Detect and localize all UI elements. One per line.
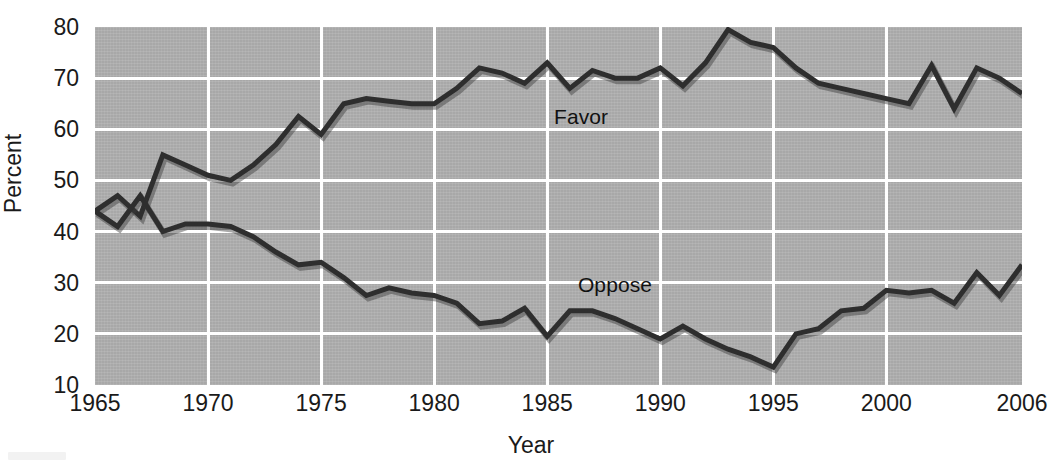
y-tick-label: 40 bbox=[33, 218, 79, 245]
y-tick-label: 20 bbox=[33, 320, 79, 347]
x-axis-tick-labels: 196519701975198019851990199520002006 bbox=[0, 390, 1062, 424]
series-line-oppose bbox=[95, 196, 1022, 367]
x-tick-label: 1995 bbox=[748, 390, 799, 417]
plot-area: FavorOppose bbox=[95, 27, 1022, 385]
y-tick-label: 30 bbox=[33, 269, 79, 296]
series-container bbox=[95, 27, 1022, 385]
scan-artifact bbox=[8, 452, 66, 460]
y-tick-label: 50 bbox=[33, 167, 79, 194]
x-tick-label: 2006 bbox=[996, 390, 1047, 417]
x-tick-label: 1985 bbox=[522, 390, 573, 417]
series-annotation-oppose: Oppose bbox=[578, 273, 652, 297]
x-tick-label: 2000 bbox=[861, 390, 912, 417]
x-tick-label: 1975 bbox=[296, 390, 347, 417]
line-chart-figure: Percent 8070605040302010 FavorOppose 196… bbox=[0, 0, 1062, 475]
x-tick-label: 1990 bbox=[635, 390, 686, 417]
x-tick-label: 1965 bbox=[69, 390, 120, 417]
x-tick-label: 1980 bbox=[409, 390, 460, 417]
x-axis-title: Year bbox=[0, 432, 1062, 459]
series-annotation-favor: Favor bbox=[554, 105, 608, 129]
series-line-shadow-oppose bbox=[97, 199, 1022, 370]
y-axis-title: Percent bbox=[0, 89, 27, 259]
y-tick-label: 80 bbox=[33, 14, 79, 41]
y-tick-label: 60 bbox=[33, 116, 79, 143]
x-tick-label: 1970 bbox=[182, 390, 233, 417]
y-tick-label: 70 bbox=[33, 65, 79, 92]
